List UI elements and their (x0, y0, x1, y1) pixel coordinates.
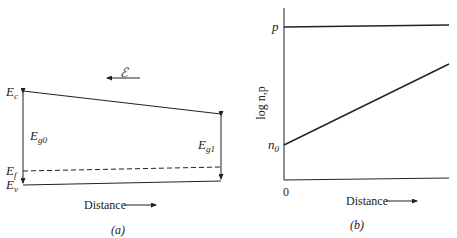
x-axis (284, 178, 449, 180)
diagram-canvas: ℰ Ec Eg0 Eg1 Ef Ev Distance (a) p (0, 0, 457, 238)
x-origin-tick: 0 (283, 185, 289, 199)
label-p: p (271, 19, 279, 34)
ylabel-b: log n,p (254, 86, 268, 119)
label-eg0: Eg0 (29, 128, 47, 145)
xlabel-a: Distance (84, 198, 126, 212)
label-ec: Ec (5, 84, 18, 101)
valence-band-line (23, 181, 221, 185)
caption-a: (a) (111, 223, 125, 237)
panel-b: p n0 log n,p 0 Distance (b) (254, 8, 449, 232)
label-n0: n0 (268, 137, 280, 154)
series-p-line (284, 25, 449, 27)
label-eg1: Eg1 (197, 137, 215, 154)
fermi-level-line (23, 167, 221, 171)
series-n-line (284, 64, 449, 145)
caption-b: (b) (350, 218, 364, 232)
panel-a: ℰ Ec Eg0 Eg1 Ef Ev Distance (a) (5, 65, 221, 237)
conduction-band-line (23, 91, 221, 114)
xlabel-b: Distance (346, 194, 388, 208)
